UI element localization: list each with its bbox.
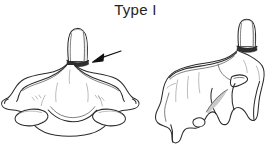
right-odontoid-process	[238, 19, 256, 47]
tubercle-outline	[193, 118, 205, 127]
left-vertebra-body	[2, 64, 139, 136]
right-vertebra-body	[156, 50, 265, 143]
anterior-tubercle	[193, 118, 205, 127]
left-panel-anterior-view	[2, 28, 139, 136]
fracture-arrow	[93, 51, 121, 62]
figure-illustration-canvas	[0, 0, 271, 152]
arrow-head	[93, 54, 104, 62]
left-odontoid-process	[68, 28, 88, 61]
right-panel-lateral-view	[156, 19, 265, 143]
figure-root: Type I	[0, 0, 271, 152]
